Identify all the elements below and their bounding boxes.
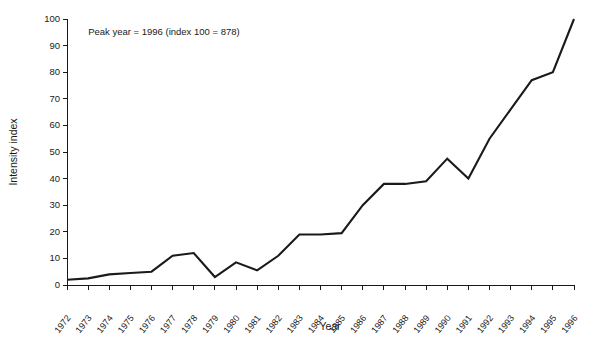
y-tick-label: 60 bbox=[49, 119, 60, 130]
y-tick-label: 10 bbox=[49, 252, 60, 263]
y-tick-label: 20 bbox=[49, 226, 60, 237]
x-tick-label: 1994 bbox=[517, 313, 537, 335]
y-axis: 0102030405060708090100 bbox=[44, 13, 67, 290]
x-tick-label: 1976 bbox=[137, 313, 157, 335]
x-tick-label: 1991 bbox=[454, 313, 474, 335]
series-line-intensity-index bbox=[67, 19, 574, 280]
x-axis: 1972197319741975197619771978197919801981… bbox=[52, 285, 579, 335]
peak-year-note: Peak year = 1996 (index 100 = 878) bbox=[88, 26, 240, 37]
x-tick-label: 1996 bbox=[559, 313, 579, 335]
x-tick-label: 1993 bbox=[496, 313, 516, 335]
x-tick-label: 1973 bbox=[73, 313, 93, 335]
x-tick-label: 1980 bbox=[221, 313, 241, 335]
y-tick-label: 0 bbox=[55, 279, 60, 290]
chart-figure: 0102030405060708090100 19721973197419751… bbox=[0, 0, 600, 341]
x-tick-label: 1992 bbox=[475, 313, 495, 335]
y-axis-title: Intensity index bbox=[7, 118, 19, 186]
data-series-intensity-index bbox=[67, 19, 574, 280]
y-tick-label: 80 bbox=[49, 66, 60, 77]
x-tick-label: 1988 bbox=[390, 313, 410, 335]
y-tick-label: 70 bbox=[49, 93, 60, 104]
x-tick-label: 1977 bbox=[158, 313, 178, 335]
x-tick-label: 1975 bbox=[116, 313, 136, 335]
x-tick-label: 1982 bbox=[264, 313, 284, 335]
line-chart-plot: 0102030405060708090100 19721973197419751… bbox=[0, 0, 600, 341]
x-axis-title: Year bbox=[319, 320, 341, 332]
x-tick-label: 1986 bbox=[348, 313, 368, 335]
y-tick-label: 90 bbox=[49, 40, 60, 51]
x-tick-label: 1987 bbox=[369, 313, 389, 335]
y-tick-label: 30 bbox=[49, 199, 60, 210]
x-tick-label: 1989 bbox=[411, 313, 431, 335]
y-tick-label: 40 bbox=[49, 173, 60, 184]
x-tick-label: 1995 bbox=[538, 313, 558, 335]
x-tick-label: 1981 bbox=[242, 313, 262, 335]
x-tick-label: 1972 bbox=[52, 313, 72, 335]
x-tick-label: 1979 bbox=[200, 313, 220, 335]
chart-annotations: Peak year = 1996 (index 100 = 878) bbox=[88, 26, 240, 37]
x-tick-label: 1983 bbox=[285, 313, 305, 335]
x-tick-label: 1978 bbox=[179, 313, 199, 335]
y-tick-label: 100 bbox=[44, 13, 60, 24]
y-tick-label: 50 bbox=[49, 146, 60, 157]
x-tick-label: 1990 bbox=[433, 313, 453, 335]
x-tick-label: 1974 bbox=[95, 313, 115, 335]
